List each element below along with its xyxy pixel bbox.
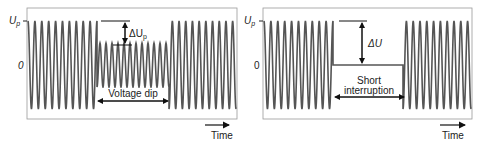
time-label: Time <box>211 130 233 141</box>
power-quality-diagram: Up 0 ΔUp Voltage dip Time Up 0 ΔU Short … <box>0 0 485 150</box>
event-label-line2: interruption <box>344 85 394 96</box>
y-label-peak: Up <box>244 15 255 28</box>
delta-label: ΔU <box>367 38 383 49</box>
y-label-zero: 0 <box>18 60 24 71</box>
panel-voltage-dip: Up 0 ΔUp Voltage dip Time <box>9 8 237 141</box>
delta-label: ΔUp <box>129 28 147 41</box>
y-label-peak: Up <box>9 15 20 28</box>
y-label-zero: 0 <box>254 60 260 71</box>
event-label: Voltage dip <box>108 88 158 99</box>
time-label: Time <box>442 130 464 141</box>
panel-short-interruption: Up 0 ΔU Short interruption Time <box>244 8 472 141</box>
